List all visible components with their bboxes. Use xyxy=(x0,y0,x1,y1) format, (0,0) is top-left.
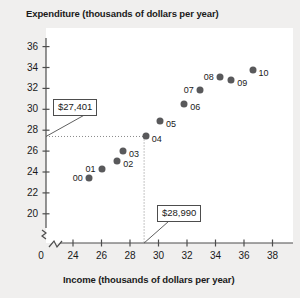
data-point-03 xyxy=(119,148,126,155)
x-tick-label-28: 28 xyxy=(121,250,139,261)
data-point-06 xyxy=(181,101,188,108)
data-point-label-06: 06 xyxy=(190,102,200,112)
x-tick-label-34: 34 xyxy=(207,250,225,261)
data-point-label-02: 02 xyxy=(123,159,133,169)
data-point-label-00: 00 xyxy=(73,173,83,183)
x-axis-title: Income (thousands of dollars per year) xyxy=(63,274,234,285)
y-tick-label-26: 26 xyxy=(20,145,38,156)
y-axis-break-icon xyxy=(42,230,46,239)
data-point-label-10: 10 xyxy=(259,68,269,78)
y-tick-label-24: 24 xyxy=(20,166,38,177)
x-tick-label-38: 38 xyxy=(264,250,282,261)
y-tick-label-20: 20 xyxy=(20,208,38,219)
data-point-07 xyxy=(196,87,203,94)
data-point-00 xyxy=(85,175,92,182)
y-tick-label-32: 32 xyxy=(20,82,38,93)
scatter-plot-figure: Expenditure (thousands of dollars per ye… xyxy=(0,0,300,298)
y-tick-label-34: 34 xyxy=(20,62,38,73)
data-point-label-09: 09 xyxy=(237,78,247,88)
y-axis-title: Expenditure (thousands of dollars per ye… xyxy=(26,8,219,19)
y-tick-label-22: 22 xyxy=(20,187,38,198)
y-tick-label-36: 36 xyxy=(20,41,38,52)
data-point-09 xyxy=(228,77,235,84)
data-point-01 xyxy=(98,165,105,172)
income-callout: $28,990 xyxy=(157,205,201,222)
data-point-08 xyxy=(216,73,223,80)
data-point-label-04: 04 xyxy=(152,134,162,144)
x-tick-label-32: 32 xyxy=(178,250,196,261)
data-point-label-05: 05 xyxy=(166,119,176,129)
x-tick-label-24: 24 xyxy=(64,250,82,261)
data-point-02 xyxy=(114,157,121,164)
data-point-label-08: 08 xyxy=(204,72,214,82)
y-tick-label-28: 28 xyxy=(20,124,38,135)
expenditure-callout: $27,401 xyxy=(53,99,97,116)
data-point-label-03: 03 xyxy=(129,149,139,159)
data-point-05 xyxy=(156,117,163,124)
origin-tick-label: 0 xyxy=(32,250,50,261)
y-tick-label-30: 30 xyxy=(20,103,38,114)
data-point-label-01: 01 xyxy=(85,164,95,174)
data-point-04 xyxy=(142,133,149,140)
data-point-label-07: 07 xyxy=(184,85,194,95)
x-tick-label-36: 36 xyxy=(235,250,253,261)
x-tick-label-30: 30 xyxy=(150,250,168,261)
x-axis-break-icon xyxy=(49,241,62,247)
x-tick-label-26: 26 xyxy=(93,250,111,261)
data-point-10 xyxy=(249,66,256,73)
